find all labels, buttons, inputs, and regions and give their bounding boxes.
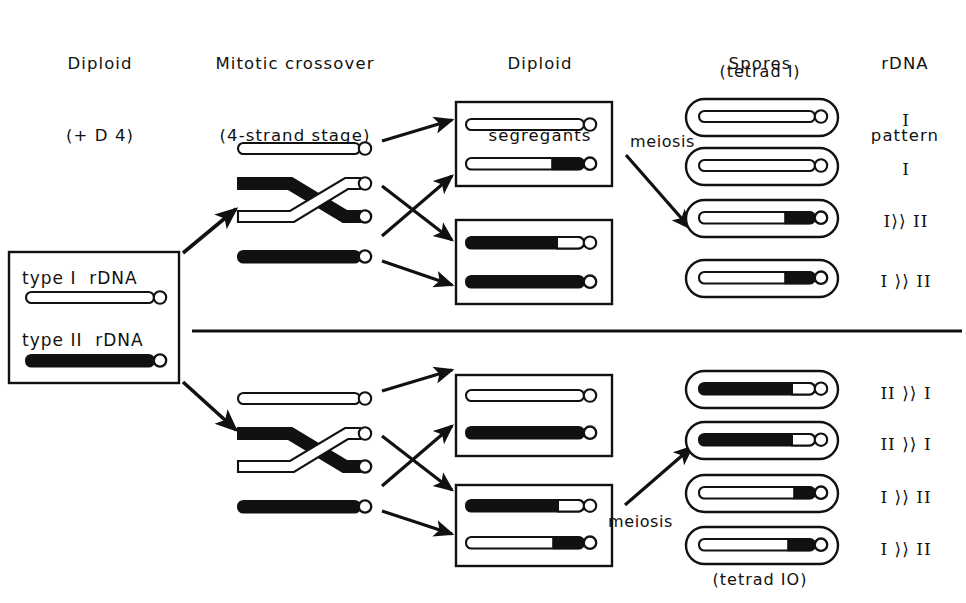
- crossover-bottom-strand-4: [238, 500, 371, 512]
- spore-top-2: [686, 148, 838, 185]
- spore-top-1: [686, 99, 838, 136]
- segregant-box-bottom-a: [456, 375, 612, 456]
- arrow-bottom-strand1-to-boxA: [382, 370, 452, 391]
- segregant-box-top-a: [456, 102, 612, 186]
- segregant-box-bottom-b: [456, 485, 612, 566]
- panel-top: [238, 99, 838, 304]
- spore-top-3: [686, 200, 838, 237]
- diagram-graphics: [0, 0, 966, 603]
- segregant-box-top-b: [456, 220, 612, 304]
- arrow-bottom-cross-down-to-boxB: [382, 436, 452, 490]
- arrow-top-cross-up-to-boxA: [382, 176, 452, 236]
- segregant-top-a-chr-2: [466, 158, 596, 170]
- segregant-top-b-chr-1: [466, 237, 596, 249]
- arrow-bottom-cross-up-to-boxA: [382, 426, 452, 486]
- spore-bottom-4: [686, 527, 838, 564]
- segregant-top-a-chr-1: [466, 118, 596, 130]
- segregant-bottom-a-chr-1: [466, 389, 596, 401]
- crossover-top-strand-1: [238, 142, 371, 154]
- panel-bottom: [238, 370, 838, 566]
- segregant-bottom-a-chr-2: [466, 427, 596, 439]
- legend-type2-chromosome: [26, 354, 166, 366]
- arrow-bottom-strand4-to-boxB: [382, 511, 452, 534]
- arrow-legend-to-top-crossover: [183, 209, 236, 253]
- segregant-bottom-b-chr-1: [466, 500, 596, 512]
- crossover-top: [238, 142, 371, 262]
- spore-bottom-3: [686, 475, 838, 512]
- arrow-top-cross-down-to-boxB: [382, 186, 452, 240]
- diagram-canvas: Diploid (+ D 4) Mitotic crossover (4-str…: [0, 0, 966, 603]
- crossover-top-strand-4: [238, 250, 371, 262]
- arrow-meiosis-bottom: [625, 447, 692, 505]
- arrow-meiosis-top: [626, 155, 690, 228]
- crossover-bottom-strand-1: [238, 392, 371, 404]
- arrow-top-strand1-to-boxA: [382, 120, 452, 141]
- segregant-bottom-b-chr-2: [466, 537, 596, 549]
- segregant-top-b-chr-2: [466, 276, 596, 288]
- spore-bottom-2: [686, 422, 838, 459]
- legend-type1-chromosome: [26, 291, 166, 303]
- spore-bottom-1: [686, 371, 838, 408]
- arrow-legend-to-bottom-crossover: [183, 382, 236, 430]
- crossover-bottom: [238, 392, 371, 512]
- spore-top-4: [686, 260, 838, 297]
- arrow-top-strand4-to-boxB: [382, 261, 452, 285]
